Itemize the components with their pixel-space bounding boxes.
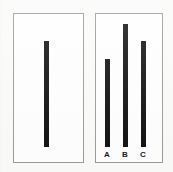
bar-label-a: A — [101, 150, 113, 159]
bar-single — [44, 41, 49, 147]
right-panel: A B C — [95, 13, 163, 163]
figure-canvas: A B C — [0, 0, 173, 172]
bar-a — [105, 59, 110, 147]
bar-label-b: B — [119, 150, 131, 159]
bar-b — [123, 24, 128, 147]
bar-c — [141, 41, 146, 147]
bar-label-c: C — [137, 150, 149, 159]
left-panel — [13, 13, 84, 163]
